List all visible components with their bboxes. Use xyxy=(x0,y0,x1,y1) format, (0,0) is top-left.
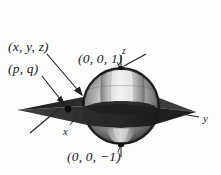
label-axis-z: z xyxy=(122,47,126,57)
label-south-pole: (0, 0, −1) xyxy=(67,150,121,164)
label-axis-x: x xyxy=(63,127,68,138)
pq-point-marker xyxy=(65,106,72,113)
label-point-pq: (p, q) xyxy=(8,62,38,76)
label-axis-y: y xyxy=(203,113,208,124)
label-point-xyz: (x, y, z) xyxy=(8,40,49,54)
sphere-plane-figure: (x, y, z) (p, q) (0, 0, 1) (0, 0, −1) z … xyxy=(0,0,221,175)
label-north-pole: (0, 0, 1) xyxy=(78,52,123,66)
